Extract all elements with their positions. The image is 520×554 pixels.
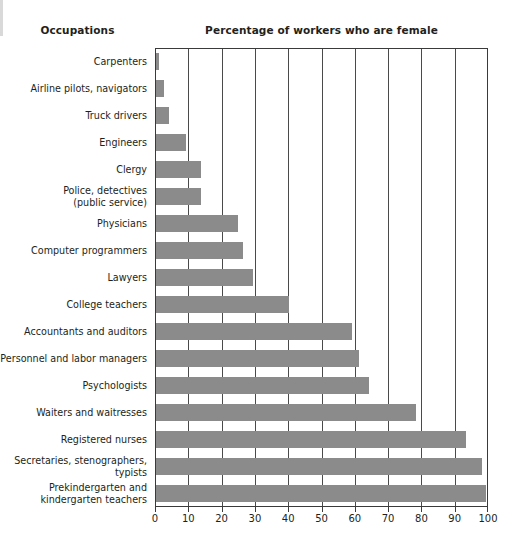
bar-label-line: Police, detectives [63,185,147,197]
bar-label-line: Waiters and waitresses [36,407,147,419]
bar [156,377,369,394]
x-tick-mark [188,507,189,512]
x-tick-mark [288,507,289,512]
bar-label: College teachers [0,291,151,318]
x-tick-mark [155,507,156,512]
x-tick-mark [487,507,488,512]
bar-label: Lawyers [0,264,151,291]
bar-label: Waiters and waitresses [0,399,151,426]
bar-row: Airline pilots, navigators [0,75,520,102]
bar-label: Airline pilots, navigators [0,75,151,102]
bar-label-line: Truck drivers [85,110,147,122]
bar [156,53,159,70]
bar-row: Physicians [0,210,520,237]
bar-label-line: Carpenters [94,56,147,68]
bar [156,431,466,448]
bar-row: Engineers [0,129,520,156]
bar-label-line: Airline pilots, navigators [30,83,147,95]
bar-label: Computer programmers [0,237,151,264]
bar-label-line: typists [115,467,147,479]
bar-label: Personnel and labor managers [0,345,151,372]
bar-label-line: Prekindergarten and [49,482,147,494]
bar-rows: CarpentersAirline pilots, navigatorsTruc… [0,48,520,507]
bar [156,188,201,205]
bar-label: Truck drivers [0,102,151,129]
bar-row: Prekindergarten andkindergarten teachers [0,480,520,507]
bar-row: Psychologists [0,372,520,399]
x-tick-mark [455,507,456,512]
bar [156,242,243,259]
bar-label: Registered nurses [0,426,151,453]
bar [156,485,486,502]
value-axis-header: Percentage of workers who are female [155,24,488,36]
bar-label-line: Accountants and auditors [24,326,147,338]
x-tick-label: 100 [468,513,508,524]
bar-label: Prekindergarten andkindergarten teachers [0,480,151,507]
bar-row: Computer programmers [0,237,520,264]
bar [156,350,359,367]
bar-label-line: Lawyers [107,272,147,284]
bar-label-line: (public service) [73,197,147,209]
category-axis-header: Occupations [0,24,155,36]
bar-label: Police, detectives(public service) [0,183,151,210]
bar-label: Psychologists [0,372,151,399]
bar-row: Lawyers [0,264,520,291]
bar-label-line: Engineers [99,137,147,149]
x-tick-mark [255,507,256,512]
bar-label-line: kindergarten teachers [40,494,147,506]
bar [156,458,482,475]
bar-row: Personnel and labor managers [0,345,520,372]
x-tick-mark [355,507,356,512]
bar-label: Clergy [0,156,151,183]
bar [156,404,416,421]
bar-row: Carpenters [0,48,520,75]
x-tick-mark [322,507,323,512]
bar-row: Truck drivers [0,102,520,129]
bar [156,80,164,97]
bar-label: Secretaries, stenographers,typists [0,453,151,480]
bar-label-line: Registered nurses [61,434,147,446]
x-tick-mark [388,507,389,512]
bar-label-line: Personnel and labor managers [0,353,147,365]
bar-label: Physicians [0,210,151,237]
bar-chart: Occupations Percentage of workers who ar… [0,0,520,554]
bar [156,161,201,178]
bar-label-line: Secretaries, stenographers, [14,455,147,467]
bar-row: College teachers [0,291,520,318]
bar-label-line: Clergy [116,164,147,176]
bar-label: Carpenters [0,48,151,75]
bar [156,107,169,124]
bar [156,269,253,286]
bar-label-line: College teachers [66,299,147,311]
bar-row: Accountants and auditors [0,318,520,345]
bar-row: Clergy [0,156,520,183]
bar-row: Waiters and waitresses [0,399,520,426]
bar [156,215,238,232]
bar-label-line: Computer programmers [31,245,147,257]
bar-row: Secretaries, stenographers,typists [0,453,520,480]
bar [156,134,186,151]
bar [156,296,289,313]
bar-label: Accountants and auditors [0,318,151,345]
bar-label-line: Physicians [97,218,147,230]
bar-row: Registered nurses [0,426,520,453]
bar [156,323,352,340]
bar-label: Engineers [0,129,151,156]
x-tick-mark [421,507,422,512]
chart-headers: Occupations Percentage of workers who ar… [0,24,520,42]
x-tick-mark [222,507,223,512]
bar-label-line: Psychologists [82,380,147,392]
bar-row: Police, detectives(public service) [0,183,520,210]
